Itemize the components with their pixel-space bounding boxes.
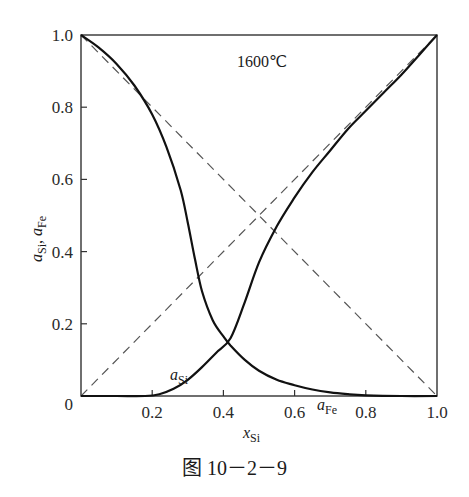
y-tick-label: 1.0 <box>52 26 73 45</box>
y-axis-label: aSi, aFe <box>28 216 49 262</box>
temperature-label: 1600℃ <box>237 53 287 70</box>
x-tick-label: 1.0 <box>426 403 447 422</box>
x-tick-label: 0.8 <box>355 403 376 422</box>
y-tick-label: 0.2 <box>52 315 73 334</box>
y-tick-label: 0.4 <box>52 243 74 262</box>
y-tick-label: 0.8 <box>52 98 73 117</box>
x-tick-label: 0.4 <box>213 403 235 422</box>
y-tick-label: 0.6 <box>52 170 73 189</box>
series-label-a-si: aSi <box>170 366 189 387</box>
x-tick-label: 0.2 <box>142 403 163 422</box>
x-axis-label: xSi <box>242 424 261 445</box>
figure-caption: 图 10－2－9 <box>0 452 469 481</box>
series-label-a-fe: aFe <box>317 396 337 417</box>
ideal-dashed-lines <box>81 35 437 396</box>
y-tick-label: 0 <box>65 395 74 414</box>
x-tick-label: 0.6 <box>284 403 305 422</box>
axis-ticks: 0.20.40.60.81.000.20.40.60.81.0 <box>52 26 448 422</box>
chart: 0.20.40.60.81.000.20.40.60.81.0 1600℃ aS… <box>0 0 469 497</box>
